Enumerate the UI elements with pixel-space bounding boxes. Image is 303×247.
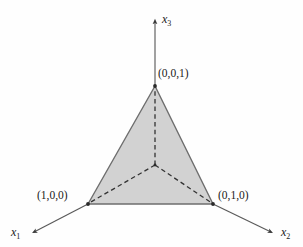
- axis-label-x1: x1: [11, 226, 20, 241]
- figure-canvas: [0, 0, 303, 247]
- axis-line-x2: [213, 204, 271, 232]
- vertex-label-v100: (1,0,0): [37, 190, 68, 202]
- axis-line-x1: [34, 204, 88, 232]
- simplex-triangle: [88, 86, 213, 204]
- vertex-label-v001: (0,0,1): [158, 68, 189, 80]
- vertex-dot-v001: [153, 84, 157, 88]
- axis-label-x2-subscript: 2: [286, 232, 290, 241]
- vertex-dot-v100: [86, 202, 90, 206]
- axis-label-x3: x3: [162, 13, 171, 28]
- axis-label-x2: x2: [281, 226, 290, 241]
- axis-label-x3-subscript: 3: [167, 19, 171, 28]
- axis-label-x1-subscript: 1: [16, 232, 20, 241]
- origin-dot: [154, 164, 157, 167]
- simplex-figure: (0,0,1) (1,0,0) (0,1,0) x3 x1 x2: [0, 0, 303, 247]
- vertex-dot-v010: [211, 202, 215, 206]
- vertex-label-v010: (0,1,0): [218, 190, 249, 202]
